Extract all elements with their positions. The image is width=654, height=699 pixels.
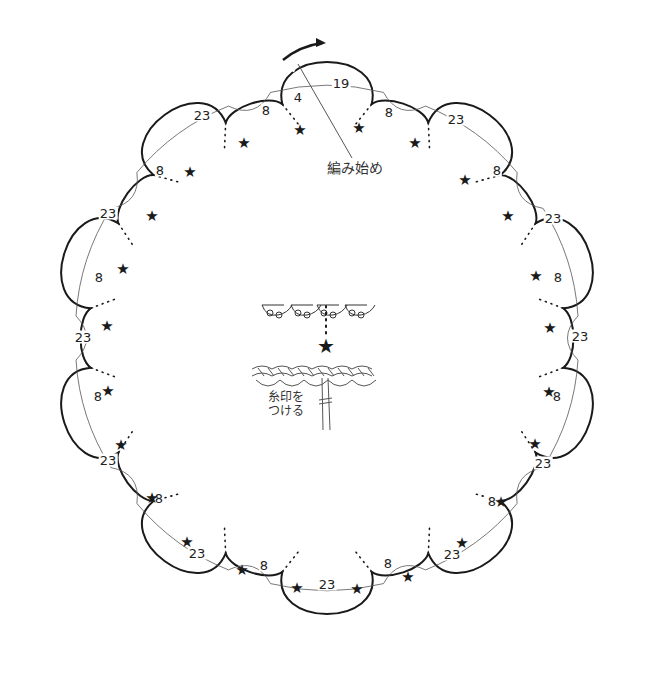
star-marker-icon: ★ <box>290 581 303 596</box>
star-marker-icon: ★ <box>529 269 542 284</box>
star-marker-icon: ★ <box>458 173 471 188</box>
stitch-count-label: 23 <box>99 207 118 220</box>
start-label: 編み始め <box>327 160 383 176</box>
yarn-marker-icon <box>319 378 332 430</box>
star-marker-icon: ★ <box>145 209 158 224</box>
stitch-count-label: 8 <box>492 164 502 177</box>
star-marker-icon: ★ <box>180 535 193 550</box>
stitch-count-label: 23 <box>74 331 93 344</box>
stitch-count-label: 8 <box>383 557 393 570</box>
stitch-count-label: 23 <box>447 113 466 126</box>
stitch-count-label: 8 <box>155 164 165 177</box>
star-marker-icon: ★ <box>542 385 555 400</box>
inset-braided-edge-icon <box>252 366 376 386</box>
stitch-count-label: 23 <box>544 212 563 225</box>
star-marker-icon: ★ <box>183 165 196 180</box>
star-marker-icon: ★ <box>528 437 541 452</box>
star-marker-icon: ★ <box>408 136 421 151</box>
star-marker-icon: ★ <box>100 319 113 334</box>
stitch-count-label: 8 <box>259 559 269 572</box>
star-marker-icon: ★ <box>494 495 507 510</box>
stitch-count-label: 23 <box>318 578 337 591</box>
stitch-count-label: 23 <box>534 457 553 470</box>
yarn-marker-note: 糸印を つける <box>268 391 304 419</box>
star-marker-icon: ★ <box>501 209 514 224</box>
star-marker-icon: ★ <box>101 384 114 399</box>
star-marker-icon: ★ <box>116 262 129 277</box>
stitch-count-label: 8 <box>261 104 271 117</box>
stitch-count-label: 8 <box>384 106 394 119</box>
stitch-count-label: 4 <box>293 91 303 104</box>
inset-chain-stitches-icon <box>262 305 375 318</box>
scallop-ring <box>61 50 593 614</box>
stitch-count-label: 8 <box>553 271 563 284</box>
stitch-count-label: 8 <box>94 271 104 284</box>
inset-star-icon: ★ <box>317 336 335 356</box>
yarn-marker-note-line2: つける <box>268 405 304 419</box>
star-marker-icon: ★ <box>235 563 248 578</box>
star-marker-icon: ★ <box>543 321 556 336</box>
star-marker-icon: ★ <box>350 582 363 597</box>
stitch-count-label: 23 <box>193 109 212 122</box>
star-marker-icon: ★ <box>145 491 158 506</box>
star-marker-icon: ★ <box>455 536 468 551</box>
star-marker-icon: ★ <box>237 136 250 151</box>
stitch-count-label: 23 <box>99 454 118 467</box>
yarn-marker-note-line1: 糸印を <box>268 391 304 405</box>
stitch-count-label: 23 <box>571 330 590 343</box>
star-marker-icon: ★ <box>293 123 306 138</box>
star-marker-icon: ★ <box>352 121 365 136</box>
star-marker-icon: ★ <box>114 438 127 453</box>
star-marker-icon: ★ <box>401 570 414 585</box>
stitch-count-label: 19 <box>332 77 351 90</box>
